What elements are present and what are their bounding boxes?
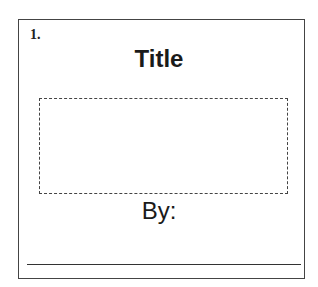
item-number: 1. [30,27,41,43]
card-title: Title [0,45,318,73]
drawing-area [39,98,288,194]
byline-label: By: [0,197,318,225]
author-signature-line [27,264,301,265]
